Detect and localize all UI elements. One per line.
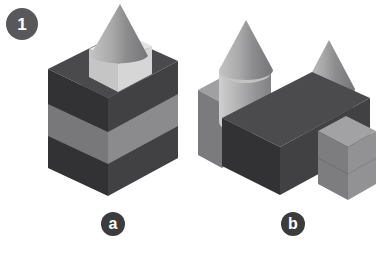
worksheet-page: 1 <box>0 0 384 256</box>
figure-b-label: b <box>281 212 305 236</box>
figure-b[interactable] <box>190 0 384 210</box>
figure-a[interactable] <box>38 0 188 210</box>
cone-a <box>90 4 148 63</box>
figure-b-drawing <box>190 0 384 210</box>
question-number-text: 1 <box>17 16 26 33</box>
figure-b-label-text: b <box>288 216 298 232</box>
figure-a-label: a <box>101 212 125 236</box>
figure-a-label-text: a <box>109 216 118 232</box>
figure-a-drawing <box>38 0 188 210</box>
cone-b-left <box>219 20 273 80</box>
block-b-right-light <box>318 116 376 200</box>
question-number-badge: 1 <box>6 8 38 40</box>
